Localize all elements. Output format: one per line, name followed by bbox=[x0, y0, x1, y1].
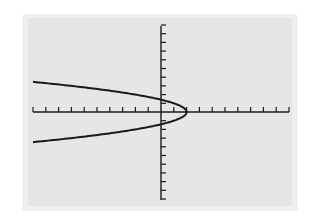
graph-plot bbox=[0, 0, 315, 219]
